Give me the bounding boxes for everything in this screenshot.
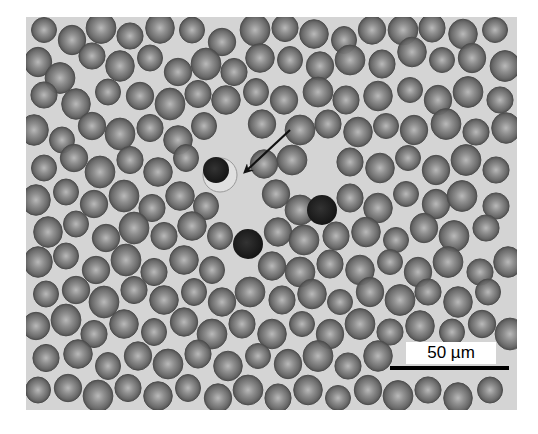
arrowed-cell-nucleus	[203, 157, 229, 183]
red-blood-cell	[358, 17, 385, 44]
red-blood-cell	[468, 310, 495, 337]
red-blood-cell	[492, 113, 517, 144]
red-blood-cell	[415, 279, 441, 305]
red-blood-cell	[166, 182, 195, 211]
red-blood-cell	[191, 48, 221, 80]
red-blood-cell	[146, 17, 175, 43]
red-blood-cell	[80, 190, 107, 217]
red-blood-cell	[483, 157, 509, 183]
red-blood-cell	[323, 222, 349, 250]
red-blood-cell	[385, 285, 415, 316]
red-blood-cell	[170, 246, 199, 275]
red-blood-cell	[117, 146, 143, 173]
red-blood-cell	[248, 110, 275, 138]
red-blood-cell	[317, 250, 343, 278]
red-blood-cell	[303, 77, 333, 107]
red-blood-cell	[64, 211, 89, 237]
red-blood-cell	[352, 217, 381, 247]
red-blood-cell	[109, 180, 139, 212]
red-blood-cell	[32, 18, 57, 43]
red-blood-cell	[137, 114, 163, 141]
dark-cell-right	[307, 195, 337, 225]
red-blood-cell	[415, 377, 441, 403]
red-blood-cell	[430, 48, 455, 73]
red-blood-cell	[142, 319, 167, 346]
red-blood-cell	[298, 279, 327, 309]
red-blood-cell	[144, 158, 173, 187]
red-blood-cell	[111, 244, 141, 276]
red-blood-cell	[458, 43, 485, 72]
red-blood-cell	[374, 114, 399, 139]
red-blood-cell	[294, 375, 323, 405]
red-blood-cell	[265, 384, 291, 410]
red-blood-cell	[64, 340, 93, 369]
red-blood-cell	[451, 145, 481, 176]
red-blood-cell	[364, 81, 393, 111]
dark-cell-left	[233, 229, 263, 259]
red-blood-cell	[221, 58, 247, 85]
red-blood-cell	[208, 288, 235, 316]
red-blood-cell	[240, 17, 270, 46]
red-blood-cell	[422, 155, 449, 184]
red-blood-cell	[410, 213, 437, 242]
red-blood-cell	[478, 377, 503, 403]
red-blood-cell	[364, 341, 393, 372]
red-blood-cell	[119, 212, 149, 244]
red-blood-cell	[356, 277, 383, 306]
red-blood-cell	[369, 50, 395, 78]
red-blood-cell	[62, 276, 89, 303]
red-blood-cell	[105, 118, 135, 150]
red-blood-cell	[328, 290, 353, 315]
red-blood-cell	[79, 43, 105, 69]
red-blood-cell	[344, 117, 373, 147]
red-blood-cell	[394, 182, 419, 207]
red-blood-cell	[86, 17, 116, 43]
red-blood-cell	[337, 184, 363, 212]
red-blood-cell	[235, 277, 265, 307]
red-blood-cell	[200, 257, 225, 284]
red-blood-cell	[272, 17, 298, 42]
red-blood-cell	[495, 318, 517, 350]
red-blood-cell	[54, 374, 81, 401]
red-blood-cell	[26, 312, 50, 339]
red-blood-cell	[335, 45, 365, 75]
red-blood-cell	[277, 145, 307, 175]
red-blood-cell	[476, 279, 501, 305]
red-blood-cell	[337, 148, 363, 176]
red-blood-cell	[400, 115, 427, 144]
red-blood-cell	[185, 340, 211, 368]
red-blood-cell	[115, 374, 141, 401]
red-blood-cell	[60, 144, 87, 171]
red-blood-cell	[384, 228, 409, 253]
red-blood-cell	[490, 51, 517, 82]
red-blood-cell	[433, 247, 463, 278]
red-blood-cell	[26, 115, 48, 146]
red-blood-cell	[354, 375, 381, 404]
red-blood-cell	[110, 310, 139, 339]
red-blood-cell	[92, 224, 119, 251]
red-blood-cell	[85, 156, 115, 188]
red-blood-cell	[204, 384, 231, 410]
red-blood-cell	[383, 381, 413, 410]
red-blood-cell	[274, 349, 301, 378]
red-blood-cell	[333, 86, 359, 114]
red-blood-cell	[306, 52, 333, 80]
red-blood-cell	[290, 312, 315, 337]
red-blood-cell	[463, 119, 489, 145]
red-blood-cell	[54, 243, 79, 269]
red-blood-cell	[289, 225, 319, 255]
red-blood-cell	[138, 45, 163, 71]
red-blood-cell	[398, 37, 427, 67]
red-blood-cell	[278, 47, 303, 74]
red-blood-cell	[453, 77, 483, 108]
red-blood-cell	[32, 155, 57, 181]
red-blood-cell	[26, 185, 50, 216]
red-blood-cell	[315, 110, 341, 138]
red-blood-cell	[447, 181, 477, 212]
red-blood-cell	[26, 377, 51, 403]
red-blood-cell	[406, 311, 435, 342]
red-blood-cell	[121, 276, 147, 303]
red-blood-cell	[494, 247, 517, 278]
red-blood-cell	[487, 87, 513, 113]
red-blood-cell	[366, 153, 395, 183]
